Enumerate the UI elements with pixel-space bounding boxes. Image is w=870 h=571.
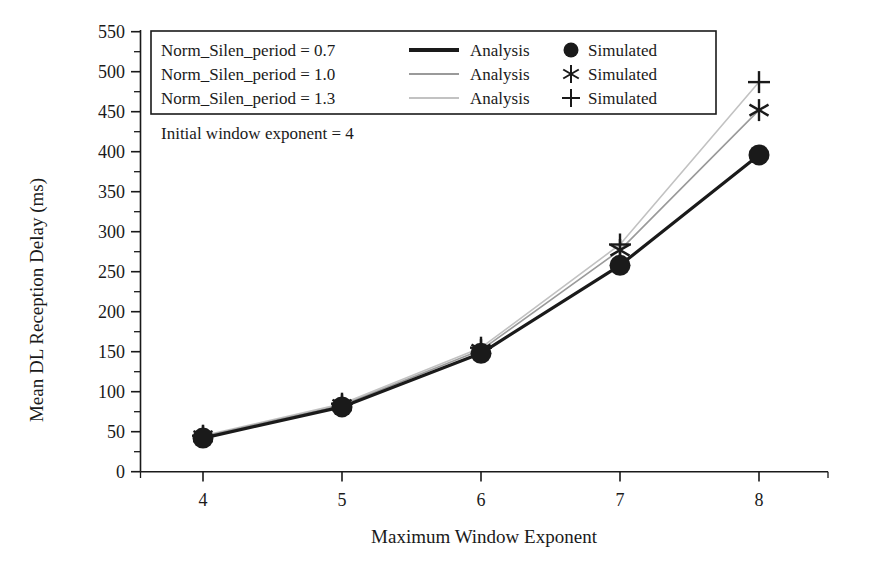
filled-circle-marker bbox=[610, 255, 631, 276]
plus-marker bbox=[748, 71, 770, 93]
legend-series-label: Norm_Silen_period = 1.3 bbox=[161, 89, 335, 108]
legend-line-label: Analysis bbox=[470, 89, 530, 108]
legend-series-label: Norm_Silen_period = 0.7 bbox=[161, 41, 336, 60]
x-tick-label: 7 bbox=[616, 490, 625, 510]
y-axis: 0 50 100 150 200 250 300 350 400 450 500… bbox=[26, 22, 141, 482]
x-tick-labels: 4 5 6 7 8 bbox=[199, 490, 764, 510]
legend-marker-label: Simulated bbox=[588, 65, 657, 84]
x-axis-end-caps bbox=[141, 472, 829, 478]
chart-canvas: 0 50 100 150 200 250 300 350 400 450 500… bbox=[0, 0, 870, 571]
filled-circle-marker-icon bbox=[564, 43, 579, 58]
y-tick-label: 200 bbox=[98, 302, 125, 322]
legend: Norm_Silen_period = 0.7 Analysis Simulat… bbox=[151, 31, 716, 114]
x-tick-label: 4 bbox=[199, 490, 208, 510]
legend-series-label: Norm_Silen_period = 1.0 bbox=[161, 65, 335, 84]
y-tick-label: 100 bbox=[98, 382, 125, 402]
y-tick-label: 400 bbox=[98, 142, 125, 162]
y-tick-label: 350 bbox=[98, 182, 125, 202]
x-axis: 4 5 6 7 8 Maximum Window Exponent bbox=[141, 472, 829, 547]
data-series bbox=[203, 110, 759, 436]
series-line bbox=[203, 110, 759, 436]
y-tick-label: 450 bbox=[98, 102, 125, 122]
y-tick-label: 300 bbox=[98, 222, 125, 242]
x-tick-label: 8 bbox=[755, 490, 764, 510]
scan-artifact-strip bbox=[0, 553, 870, 571]
y-tick-label: 150 bbox=[98, 342, 125, 362]
y-tick-label: 50 bbox=[107, 422, 125, 442]
x-tick-label: 6 bbox=[477, 490, 486, 510]
x-tick-label: 5 bbox=[338, 490, 347, 510]
legend-line-label: Analysis bbox=[470, 41, 530, 60]
filled-circle-marker bbox=[193, 428, 214, 449]
y-tick-label: 550 bbox=[98, 22, 125, 42]
data-series bbox=[203, 155, 759, 438]
figure-container: 0 50 100 150 200 250 300 350 400 450 500… bbox=[0, 0, 870, 571]
y-axis-title: Mean DL Reception Delay (ms) bbox=[26, 178, 48, 422]
filled-circle-marker bbox=[471, 343, 492, 364]
y-tick-label: 250 bbox=[98, 262, 125, 282]
series-markers bbox=[193, 99, 768, 447]
legend-marker-label: Simulated bbox=[588, 89, 657, 108]
series-markers bbox=[193, 144, 770, 448]
y-tick-label: 0 bbox=[116, 462, 125, 482]
initial-window-annotation: Initial window exponent = 4 bbox=[161, 124, 354, 143]
series-line bbox=[203, 155, 759, 438]
y-tick-label: 500 bbox=[98, 62, 125, 82]
x-axis-major-ticks bbox=[203, 472, 759, 482]
filled-circle-marker bbox=[332, 396, 353, 417]
legend-marker-label: Simulated bbox=[588, 41, 657, 60]
legend-line-label: Analysis bbox=[470, 65, 530, 84]
x-axis-title: Maximum Window Exponent bbox=[371, 526, 598, 547]
filled-circle-marker bbox=[749, 144, 770, 165]
y-tick-labels: 0 50 100 150 200 250 300 350 400 450 500… bbox=[98, 22, 125, 482]
